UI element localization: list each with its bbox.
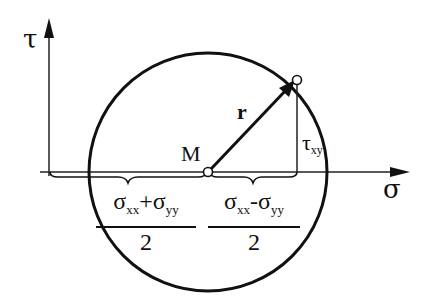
- tau-axis-label: τ: [23, 26, 37, 52]
- center-fraction: σxx+σyy 2: [96, 188, 196, 255]
- shear-stress-label: τxy: [302, 132, 323, 156]
- subscript: yy: [271, 202, 284, 217]
- radius-vector: [211, 89, 287, 169]
- tau-axis-arrowhead-icon: [44, 18, 54, 38]
- sigma-symbol: σ: [153, 188, 166, 214]
- shear-stress-subscript: xy: [311, 143, 323, 157]
- radius-label: r: [237, 101, 247, 123]
- sigma-symbol: σ: [258, 188, 271, 214]
- center-point-m: [204, 168, 213, 177]
- sigma-axis-label: σ: [383, 176, 401, 202]
- shear-stress-symbol: τ: [302, 130, 311, 155]
- half-difference-numerator: σxx-σyy: [208, 188, 300, 223]
- center-label: M: [181, 143, 201, 165]
- subscript: yy: [166, 202, 179, 217]
- subscript: xx: [126, 202, 139, 217]
- half-difference-denominator: 2: [208, 229, 300, 255]
- center-fraction-denominator: 2: [96, 229, 196, 255]
- center-fraction-numerator: σxx+σyy: [96, 188, 196, 223]
- half-difference-fraction: σxx-σyy 2: [208, 188, 300, 255]
- subscript: xx: [237, 202, 250, 217]
- sigma-symbol: σ: [224, 188, 237, 214]
- plus-operator: +: [139, 188, 153, 214]
- half-difference-brace: [210, 172, 297, 183]
- sigma-symbol: σ: [113, 188, 126, 214]
- fraction-bar: [96, 226, 196, 228]
- fraction-bar: [208, 226, 300, 228]
- mohr-circle-diagram: τ σ M r τxy σxx+σyy 2 σxx-σyy 2: [0, 0, 423, 299]
- center-distance-brace: [50, 172, 206, 183]
- minus-operator: -: [250, 188, 258, 214]
- stress-state-point: [293, 76, 302, 85]
